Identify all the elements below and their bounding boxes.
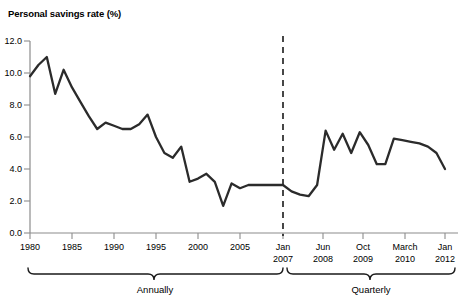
x-axis-label-march-2010-year: 2010 xyxy=(395,254,415,264)
x-axis-label-oct-2009-year: 2009 xyxy=(353,254,373,264)
x-axis-label-oct-2009-month: Oct xyxy=(356,242,371,252)
x-axis-label-1990: 1990 xyxy=(104,242,124,252)
y-axis-label-0: 0.0 xyxy=(9,228,22,238)
x-axis-labels-quarterly: Jan 2007 Jun 2008 Oct 2009 March 2010 Ja… xyxy=(273,242,455,264)
x-axis-label-jun-2008-month: Jun xyxy=(316,242,331,252)
x-axis-label-1985: 1985 xyxy=(62,242,82,252)
y-axis-labels: 0.0 2.0 4.0 6.0 8.0 10.0 12.0 xyxy=(4,36,22,238)
x-axis-label-2000: 2000 xyxy=(188,242,208,252)
annually-brace xyxy=(28,268,283,280)
x-axis-ticks-quarterly xyxy=(283,233,445,239)
y-axis-label-10: 10.0 xyxy=(4,68,22,78)
chart-figure: Personal savings rate (%) 0.0 2.0 4.0 6.… xyxy=(0,0,468,302)
x-axis-label-jan-2012-month: Jan xyxy=(438,242,453,252)
y-axis-label-2: 2.0 xyxy=(9,196,22,206)
savings-rate-line xyxy=(30,57,445,206)
x-axis-label-march-2010-month: March xyxy=(392,242,417,252)
x-axis-label-1995: 1995 xyxy=(146,242,166,252)
x-axis-labels-annual: 1980 1985 1990 1995 2000 2005 xyxy=(20,242,250,252)
x-axis-label-jan-2012-year: 2012 xyxy=(435,254,455,264)
y-axis-label-4: 4.0 xyxy=(9,164,22,174)
x-axis-label-2005: 2005 xyxy=(230,242,250,252)
x-axis-label-jan-2007-month: Jan xyxy=(276,242,291,252)
quarterly-band-label: Quarterly xyxy=(351,284,390,295)
annually-band-label: Annually xyxy=(137,284,174,295)
quarterly-brace xyxy=(287,268,455,280)
x-axis-label-jun-2008-year: 2008 xyxy=(313,254,333,264)
y-axis-label-6: 6.0 xyxy=(9,132,22,142)
x-axis-ticks-annual xyxy=(30,233,240,239)
chart-plot-area: 0.0 2.0 4.0 6.0 8.0 10.0 12.0 198 xyxy=(0,0,468,302)
y-axis-label-12: 12.0 xyxy=(4,36,22,46)
x-axis-label-1980: 1980 xyxy=(20,242,40,252)
y-axis-label-8: 8.0 xyxy=(9,100,22,110)
y-axis-ticks xyxy=(24,41,30,233)
x-axis-label-jan-2007-year: 2007 xyxy=(273,254,293,264)
